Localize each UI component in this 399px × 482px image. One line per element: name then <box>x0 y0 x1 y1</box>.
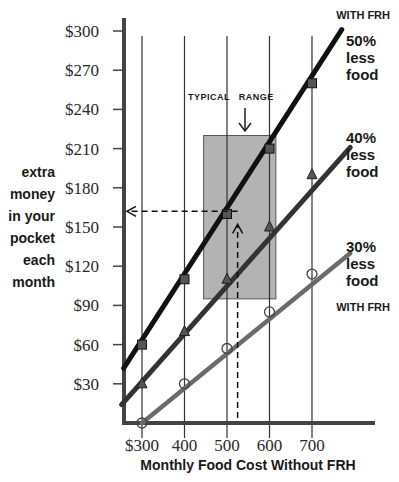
series-label-line: 30% <box>346 238 376 255</box>
series-label-line: less <box>346 255 375 272</box>
y-tick-label: $300 <box>65 22 99 41</box>
y-tick-label: $180 <box>65 179 99 198</box>
y-axis-title: extramoneyin yourpocketeachmonth <box>8 164 55 290</box>
y-tick-label: $30 <box>74 375 100 394</box>
y-axis-title-line: each <box>23 252 55 268</box>
y-tick-label: $240 <box>65 100 99 119</box>
square-marker-icon <box>138 340 147 349</box>
y-tick-label: $120 <box>65 257 99 276</box>
chart: $30$60$90$120$150$180$210$240$270$300 $3… <box>0 0 399 482</box>
y-axis-title-line: month <box>12 274 55 290</box>
y-axis-title-line: in your <box>8 208 55 224</box>
typical-range-arrow-icon <box>239 108 251 131</box>
square-marker-icon <box>308 79 317 88</box>
x-axis-title: Monthly Food Cost Without FRH <box>140 457 355 473</box>
series-label-line: less <box>346 146 375 163</box>
y-tick-label: $270 <box>65 61 99 80</box>
square-marker-icon <box>180 275 189 284</box>
x-axis-ticks: $300400500600700 <box>125 436 325 455</box>
triangle-marker-icon <box>307 169 317 179</box>
series-label-line: 50% <box>346 32 376 49</box>
x-tick-label: 600 <box>257 436 283 455</box>
series-label-line: food <box>346 66 378 83</box>
series-50-less-food <box>124 30 342 368</box>
with-frh-top-label: WITH FRH <box>336 9 390 21</box>
y-tick-label: $60 <box>74 336 100 355</box>
y-tick-label: $90 <box>74 296 100 315</box>
square-marker-icon <box>265 144 274 153</box>
series-label-line: less <box>346 49 375 66</box>
with-frh-bottom-label: WITH FRH <box>336 301 390 313</box>
y-tick-label: $150 <box>65 218 99 237</box>
series-label-line: food <box>346 163 378 180</box>
series-label-line: 40% <box>346 129 376 146</box>
series-label-line: food <box>346 272 378 289</box>
y-axis-title-line: extra <box>22 164 56 180</box>
y-axis-title-line: money <box>10 186 55 202</box>
x-tick-label: 500 <box>214 436 240 455</box>
x-tick-label: $300 <box>125 436 159 455</box>
x-tick-label: 400 <box>172 436 198 455</box>
y-axis-ticks: $30$60$90$120$150$180$210$240$270$300 <box>65 22 124 394</box>
series-labels: 50%lessfood40%lessfood30%lessfood <box>346 32 378 289</box>
x-tick-label: 700 <box>299 436 325 455</box>
y-tick-label: $210 <box>65 140 99 159</box>
y-axis-title-line: pocket <box>10 230 55 246</box>
typical-range-label: TYPICAL RANGE <box>188 92 274 102</box>
